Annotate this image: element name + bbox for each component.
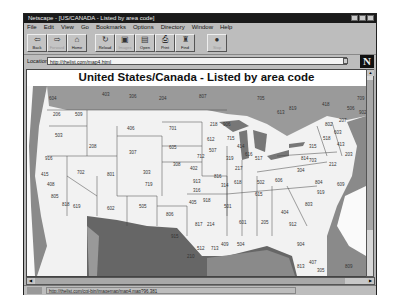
scroll-left-button[interactable]: ◀ [27, 278, 34, 284]
area-code-604[interactable]: 604 [49, 96, 57, 101]
area-code-415[interactable]: 415 [41, 172, 49, 177]
area-code-606[interactable]: 606 [275, 178, 283, 183]
area-code-701[interactable]: 701 [169, 126, 177, 131]
area-code-702[interactable]: 702 [77, 170, 85, 175]
area-code-501[interactable]: 501 [224, 204, 232, 209]
area-code-902[interactable]: 902 [359, 110, 366, 115]
area-code-816[interactable]: 816 [214, 174, 222, 179]
open-button[interactable]: ▤Open [135, 34, 155, 52]
area-code-712[interactable]: 712 [197, 154, 205, 159]
home-button[interactable]: ⌂Home [67, 34, 87, 52]
location-input[interactable]: http://thelist.com/map4.html [47, 57, 347, 65]
area-code-203[interactable]: 203 [345, 152, 353, 157]
area-code-319[interactable]: 319 [226, 156, 234, 161]
area-code-506[interactable]: 506 [347, 106, 355, 111]
menu-bookmarks[interactable]: Bookmarks [96, 23, 126, 32]
horizontal-scrollbar[interactable]: ◀ ▶ [26, 277, 375, 285]
stop-button[interactable]: ●Stop [207, 34, 227, 52]
area-code-915[interactable]: 915 [171, 234, 179, 239]
area-code-612[interactable]: 612 [207, 137, 215, 142]
area-code-217[interactable]: 217 [235, 166, 243, 171]
area-code-map[interactable]: 6044033062048077052065094067012185032086… [27, 86, 366, 276]
area-code-509[interactable]: 509 [75, 112, 83, 117]
area-code-218[interactable]: 218 [210, 122, 218, 127]
area-code-818[interactable]: 818 [62, 202, 70, 207]
area-code-414[interactable]: 414 [237, 144, 245, 149]
area-code-819[interactable]: 819 [289, 106, 297, 111]
area-code-406[interactable]: 406 [127, 126, 135, 131]
back-button[interactable]: ⇦Back [27, 34, 47, 52]
area-code-214[interactable]: 214 [207, 222, 215, 227]
area-code-315[interactable]: 315 [309, 144, 317, 149]
area-code-912[interactable]: 912 [289, 222, 297, 227]
area-code-208[interactable]: 208 [89, 144, 97, 149]
area-code-605[interactable]: 605 [169, 145, 177, 150]
menu-help[interactable]: Help [220, 23, 232, 32]
area-code-306[interactable]: 306 [129, 94, 137, 99]
forward-button[interactable]: ⇨Forward [47, 34, 67, 52]
area-code-512[interactable]: 512 [197, 246, 205, 251]
area-code-616[interactable]: 616 [245, 152, 253, 157]
vertical-scroll-thumb[interactable] [367, 80, 373, 230]
area-code-817[interactable]: 817 [195, 222, 203, 227]
area-code-615[interactable]: 615 [255, 192, 263, 197]
area-code-418[interactable]: 418 [322, 102, 330, 107]
menu-options[interactable]: Options [133, 23, 154, 32]
area-code-403[interactable]: 403 [102, 92, 110, 97]
area-code-919[interactable]: 919 [317, 190, 325, 195]
area-code-715[interactable]: 715 [227, 136, 235, 141]
area-code-305[interactable]: 305 [317, 268, 325, 273]
area-code-619[interactable]: 619 [73, 204, 81, 209]
area-code-204[interactable]: 204 [159, 96, 167, 101]
area-code-603[interactable]: 603 [334, 130, 342, 135]
menu-view[interactable]: View [61, 23, 74, 32]
area-code-308[interactable]: 308 [173, 162, 181, 167]
area-code-314[interactable]: 314 [221, 183, 229, 188]
area-code-904[interactable]: 904 [297, 242, 305, 247]
area-code-206[interactable]: 206 [53, 112, 61, 117]
area-code-913[interactable]: 913 [193, 179, 201, 184]
menu-edit[interactable]: Edit [44, 23, 54, 32]
area-code-602[interactable]: 602 [107, 206, 115, 211]
area-code-806[interactable]: 806 [166, 212, 174, 217]
area-code-210[interactable]: 210 [187, 254, 195, 259]
area-code-804[interactable]: 804 [315, 180, 323, 185]
area-code-316[interactable]: 316 [193, 188, 201, 193]
close-button[interactable] [367, 15, 374, 21]
area-code-703[interactable]: 703 [309, 158, 317, 163]
area-code-802[interactable]: 802 [325, 122, 333, 127]
menu-file[interactable]: File [27, 23, 37, 32]
area-code-504[interactable]: 504 [237, 242, 245, 247]
horizontal-scroll-thumb[interactable] [35, 278, 345, 284]
vertical-scrollbar[interactable]: ▲ [366, 69, 374, 277]
area-code-407[interactable]: 407 [309, 260, 317, 265]
area-code-303[interactable]: 303 [143, 170, 151, 175]
area-code-207[interactable]: 207 [339, 118, 347, 123]
area-code-517[interactable]: 517 [255, 156, 263, 161]
area-code-601[interactable]: 601 [239, 220, 247, 225]
area-code-503[interactable]: 503 [55, 133, 63, 138]
area-code-502[interactable]: 502 [257, 180, 265, 185]
area-code-609[interactable]: 609 [337, 182, 345, 187]
area-code-413[interactable]: 413 [337, 142, 345, 147]
menu-window[interactable]: Window [192, 23, 213, 32]
area-code-713[interactable]: 713 [211, 246, 219, 251]
area-code-719[interactable]: 719 [145, 182, 153, 187]
area-code-809[interactable]: 809 [345, 264, 353, 269]
area-code-916[interactable]: 916 [45, 156, 53, 161]
area-code-918[interactable]: 918 [203, 198, 211, 203]
area-code-801[interactable]: 801 [107, 172, 115, 177]
area-code-705[interactable]: 705 [257, 96, 265, 101]
area-code-409[interactable]: 409 [221, 242, 229, 247]
area-code-212[interactable]: 212 [329, 162, 337, 167]
location-dropdown-button[interactable] [343, 58, 348, 64]
minimize-button[interactable] [351, 15, 358, 21]
area-code-518[interactable]: 518 [323, 136, 331, 141]
images-button[interactable]: ▣Images [115, 34, 135, 52]
area-code-803[interactable]: 803 [305, 202, 313, 207]
area-code-805[interactable]: 805 [51, 194, 59, 199]
area-code-505[interactable]: 505 [139, 204, 147, 209]
maximize-button[interactable] [359, 15, 366, 21]
netscape-logo[interactable]: N [360, 55, 374, 68]
menu-directory[interactable]: Directory [161, 23, 185, 32]
